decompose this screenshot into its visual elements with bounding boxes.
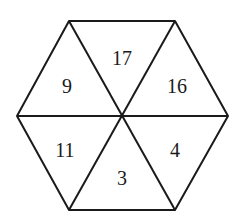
triangle-lower-left-value: 11 (55, 139, 74, 161)
triangle-upper-right-value: 16 (167, 75, 187, 97)
triangle-top-value: 17 (112, 47, 132, 69)
hexagon-diagram: 9 17 16 11 3 4 (0, 0, 239, 217)
triangle-lower-right-value: 4 (170, 139, 180, 161)
triangle-upper-left-value: 9 (62, 75, 72, 97)
triangle-bottom-value: 3 (117, 167, 127, 189)
